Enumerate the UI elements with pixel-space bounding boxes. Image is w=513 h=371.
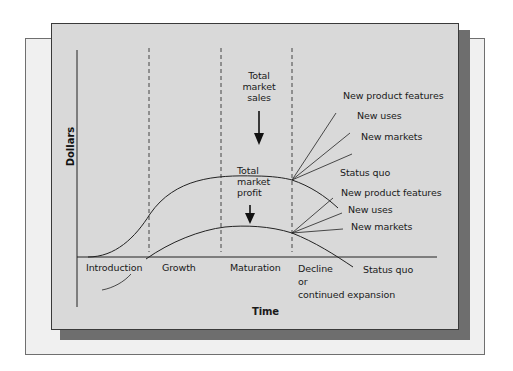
profit-branch-label-new-product-features: New product features: [341, 187, 442, 198]
sales-branch-label-new-product-features: New product features: [343, 90, 444, 101]
profit-branch-label-new-uses: New uses: [348, 204, 393, 215]
sales-branch-new-product-features: [292, 113, 336, 180]
sales-label: Total market sales: [236, 70, 282, 103]
sales-branch-label-status-quo: Status quo: [340, 167, 390, 178]
sales-branch-label-new-markets: New markets: [361, 131, 422, 142]
sales-curve: [88, 176, 338, 257]
profit-arrow-icon: [245, 205, 255, 224]
introduction-pointer: [102, 274, 131, 290]
profit-branch-new-product-features: [292, 198, 333, 233]
stage-introduction: Introduction: [86, 262, 142, 273]
profit-branch-label-new-markets: New markets: [351, 221, 412, 232]
stage-growth: Growth: [162, 262, 196, 273]
stage-decline: Decline or continued expansion: [298, 262, 395, 301]
stage-maturation: Maturation: [230, 262, 281, 273]
x-axis-label: Time: [252, 306, 279, 317]
profit-label: Total market profit: [237, 165, 270, 198]
sales-arrow-icon: [254, 111, 264, 145]
sales-branch-label-new-uses: New uses: [357, 110, 402, 121]
profit-curve: [146, 226, 353, 267]
y-axis-label: Dollars: [65, 117, 76, 177]
